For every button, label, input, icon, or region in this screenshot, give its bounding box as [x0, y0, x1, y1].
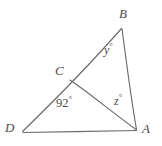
- segment-C-A: [70, 80, 136, 130]
- vertex-label-c: C: [55, 64, 64, 77]
- degree-symbol-z: °: [119, 92, 123, 102]
- angle-label-z: z°: [114, 93, 122, 107]
- segment-D-A: [23, 131, 137, 133]
- degree-symbol-y: °: [109, 41, 113, 51]
- vertex-label-b: B: [119, 7, 127, 20]
- angle-92-value: 92: [56, 96, 69, 110]
- geometry-canvas: [0, 0, 162, 146]
- geometry-figure: B C D A y° z° 92°: [0, 0, 162, 146]
- angle-label-92: 92°: [56, 95, 72, 110]
- vertex-label-a: A: [142, 122, 150, 135]
- segment-B-A: [122, 29, 137, 130]
- vertex-label-d: D: [5, 121, 15, 134]
- angle-label-y: y°: [104, 42, 113, 56]
- degree-symbol-92: °: [69, 94, 73, 104]
